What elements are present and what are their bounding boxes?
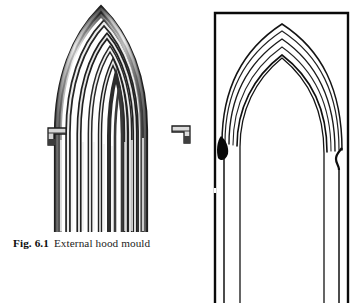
- hood-band-2: [225, 31, 339, 150]
- figure-number: Fig. 6.1: [13, 237, 49, 249]
- arch-opening-outline: [240, 58, 324, 303]
- arch-moulding-group: [55, 6, 147, 232]
- label-stop-kink-right: [336, 148, 342, 170]
- arch-line-drawing-panel: [212, 10, 351, 303]
- figure-caption: Fig. 6.1External hood mould: [13, 236, 213, 252]
- label-stop-blob-left: [217, 136, 228, 160]
- figure-title: External hood mould: [54, 237, 150, 249]
- panel-frame: [215, 13, 348, 303]
- hood-mould-bands: [222, 24, 342, 152]
- photograph-canvas: [0, 0, 212, 236]
- figure-page: Fig. 6.1External hood mould: [0, 0, 351, 303]
- line-drawing-canvas: [212, 10, 351, 303]
- hood-mould-photograph: [0, 0, 212, 236]
- label-stop-right: [172, 126, 190, 143]
